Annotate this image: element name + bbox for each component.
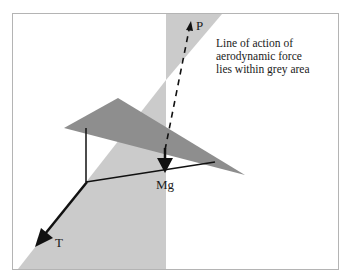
tension-label: T — [55, 235, 63, 250]
diagram-canvas: P Mg T Line of action of aerodynamic for… — [0, 0, 352, 280]
lift-label: P — [196, 18, 203, 33]
caption-line-2: aerodynamic force — [216, 50, 302, 63]
force-diagram: P Mg T Line of action of aerodynamic for… — [0, 0, 352, 280]
weight-label: Mg — [156, 177, 175, 192]
caption-line-3: lies within grey area — [216, 63, 310, 76]
caption-line-1: Line of action of — [216, 37, 293, 49]
